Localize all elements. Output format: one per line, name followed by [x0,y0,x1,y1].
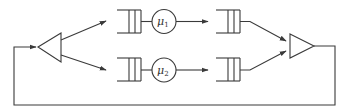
join-node [290,34,314,58]
queue-1b [216,10,240,33]
edge-queue-1b-join [240,22,286,42]
fork-edge-bottom [61,55,106,70]
queueing-network-diagram: μ1 μ2 [0,0,350,112]
server-1: μ1 [152,10,176,34]
server-2: μ2 [152,58,176,82]
queue-1a [117,10,141,33]
queue-2a [117,58,141,81]
queue-2b [216,58,240,81]
fork-node [38,33,61,62]
edge-queue-2b-join [240,51,286,70]
fork-edge-top [61,21,106,40]
